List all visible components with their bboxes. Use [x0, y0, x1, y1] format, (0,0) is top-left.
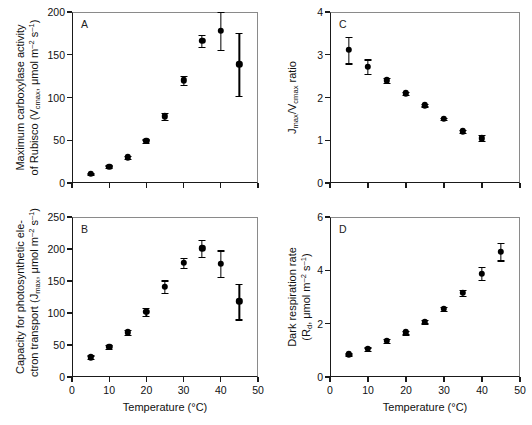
y-tick	[325, 216, 330, 217]
error-cap-bottom	[479, 280, 486, 281]
x-tick-label: 30	[438, 384, 450, 396]
y-tick	[325, 270, 330, 271]
panel-letter-d: D	[339, 223, 347, 235]
x-tick	[329, 377, 330, 382]
x-tick-label: 0	[327, 384, 333, 396]
x-tick-label: 50	[514, 384, 526, 396]
y-axis-title-d: Dark respiration rate(Rd, μmol m–2 s–1)	[286, 217, 314, 377]
figure-panel-grid: A050100150200Maximum carboxylase activit…	[0, 0, 532, 425]
x-axis-title-d: Temperature (°C)	[383, 401, 467, 413]
y-tick	[325, 323, 330, 324]
error-cap-bottom	[498, 260, 505, 261]
x-tick	[405, 377, 406, 382]
error-cap-top	[498, 243, 505, 244]
error-cap-top	[479, 267, 486, 268]
error-cap-bottom	[460, 296, 467, 297]
panel-d: D024601020304050Dark respiration rate(Rd…	[0, 0, 532, 425]
x-tick-label: 20	[400, 384, 412, 396]
x-tick	[519, 377, 520, 382]
x-tick	[367, 377, 368, 382]
plot-frame-d	[330, 217, 520, 377]
x-tick	[443, 377, 444, 382]
x-tick	[481, 377, 482, 382]
x-tick-label: 40	[476, 384, 488, 396]
x-tick-label: 10	[362, 384, 374, 396]
